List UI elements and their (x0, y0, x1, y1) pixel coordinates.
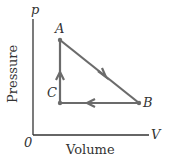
pv-diagram: p V 0 Volume Pressure A B C (0, 0, 172, 164)
x-axis-symbol: V (151, 127, 162, 142)
point-a (58, 38, 62, 42)
y-axis-label: Pressure (5, 44, 20, 103)
x-axis-label: Volume (65, 142, 115, 157)
y-axis-symbol: p (31, 2, 40, 17)
origin-label: 0 (24, 135, 32, 150)
point-b (137, 101, 141, 105)
point-c (58, 101, 62, 105)
label-c: C (47, 85, 57, 100)
label-a: A (54, 21, 64, 36)
cycle-path (56, 40, 139, 107)
label-b: B (142, 95, 153, 110)
